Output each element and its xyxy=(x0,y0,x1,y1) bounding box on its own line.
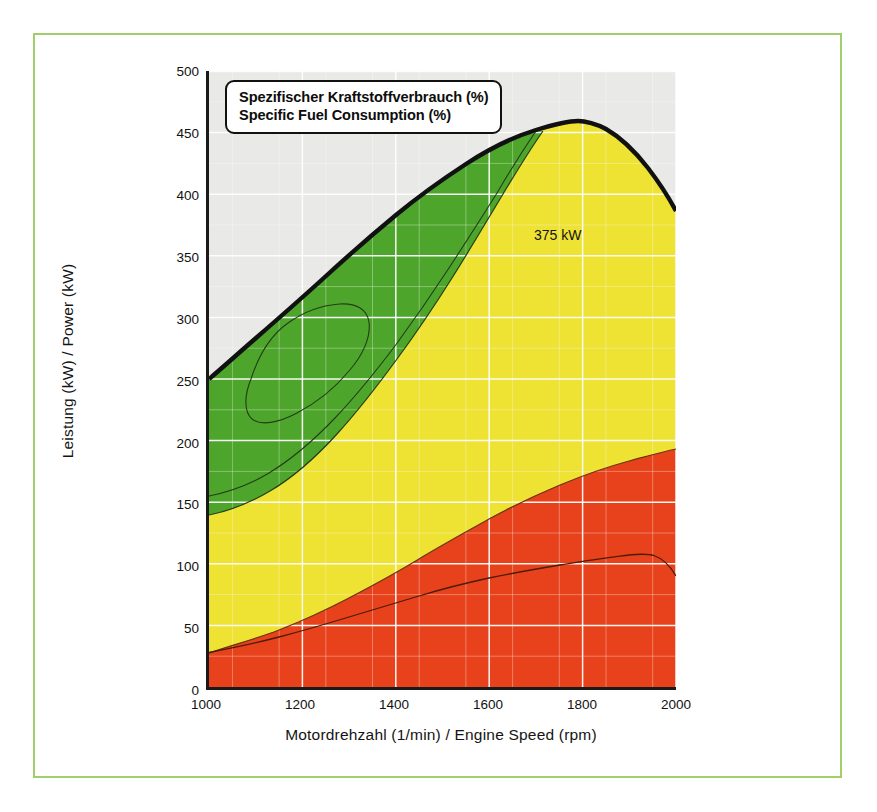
x-tick-1600: 1600 xyxy=(453,697,523,712)
legend-box: Spezifischer Kraftstoffverbrauch (%) Spe… xyxy=(225,80,502,134)
legend-line-german: Spezifischer Kraftstoffverbrauch (%) xyxy=(239,88,488,106)
plot-area: Spezifischer Kraftstoffverbrauch (%) Spe… xyxy=(206,71,676,690)
y-tick-250: 250 xyxy=(159,374,199,389)
y-axis-title: Leistung (kW) / Power (kW) xyxy=(59,231,77,491)
y-tick-100: 100 xyxy=(159,559,199,574)
y-tick-450: 450 xyxy=(159,126,199,141)
y-tick-500: 500 xyxy=(159,64,199,79)
x-tick-1800: 1800 xyxy=(547,697,617,712)
y-tick-0: 0 xyxy=(159,683,199,698)
y-axis-tick-labels: 0 50 100 150 200 250 300 350 400 450 500 xyxy=(155,0,199,812)
x-tick-1200: 1200 xyxy=(265,697,335,712)
y-tick-400: 400 xyxy=(159,188,199,203)
y-tick-350: 350 xyxy=(159,250,199,265)
fuel-consumption-chart: 0 50 100 150 200 250 300 350 400 450 500… xyxy=(0,0,877,812)
page-root: 0 50 100 150 200 250 300 350 400 450 500… xyxy=(0,0,877,812)
y-tick-50: 50 xyxy=(159,621,199,636)
plot-svg xyxy=(209,71,676,687)
y-tick-150: 150 xyxy=(159,497,199,512)
y-tick-200: 200 xyxy=(159,436,199,451)
x-tick-2000: 2000 xyxy=(641,697,711,712)
y-tick-300: 300 xyxy=(159,312,199,327)
legend-line-english: Specific Fuel Consumption (%) xyxy=(239,106,488,124)
x-axis-title: Motordrehzahl (1/min) / Engine Speed (rp… xyxy=(206,726,676,744)
x-axis-tick-labels: 1000 1200 1400 1600 1800 2000 xyxy=(0,697,877,719)
x-tick-1000: 1000 xyxy=(171,697,241,712)
x-tick-1400: 1400 xyxy=(359,697,429,712)
peak-power-annotation: 375 kW xyxy=(534,227,581,243)
